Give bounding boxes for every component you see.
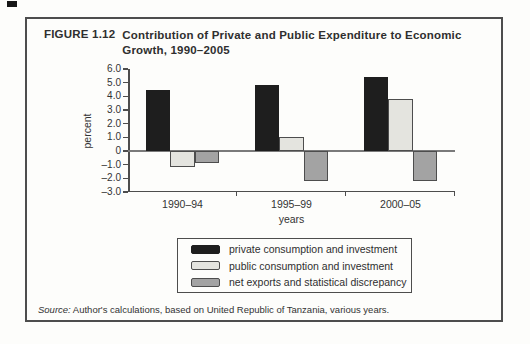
y-tick-1 [123, 137, 128, 139]
y-tick--1 [123, 164, 128, 166]
y-tick-label-1: 1.0 [85, 131, 121, 142]
y-tick-2 [123, 123, 128, 125]
bar-series1-1995–99 [279, 137, 304, 151]
bar-series1-2000–05 [388, 99, 413, 151]
legend-swatch-private [191, 245, 220, 254]
x-axis-tick-1 [236, 192, 238, 196]
figure-frame: FIGURE 1.12 Contribution of Private and … [25, 17, 503, 322]
x-category-1995–99: 1995–99 [237, 198, 346, 210]
x-category-2000–05: 2000–05 [346, 198, 455, 210]
figure-title-block: FIGURE 1.12 Contribution of Private and … [44, 28, 462, 57]
y-tick-label-0: 0 [85, 145, 121, 156]
figure-title: Contribution of Private and Public Expen… [122, 28, 461, 57]
bar-series2-1990–94 [195, 151, 220, 163]
bar-series0-2000–05 [364, 77, 389, 151]
y-tick-6 [123, 68, 128, 70]
source-note: Source: Author's calculations, based on … [38, 304, 389, 315]
y-tick-label--2: –2.0 [85, 172, 121, 183]
legend-label-private: private consumption and investment [229, 243, 397, 255]
legend-label-net-exports: net exports and statistical discrepancy [229, 276, 406, 288]
source-prefix: Source: [38, 304, 71, 315]
legend-item-private: private consumption and investment [191, 241, 411, 258]
legend: private consumption and investment publi… [177, 238, 412, 293]
legend-swatch-net-exports [191, 278, 220, 287]
bar-series0-1990–94 [146, 90, 171, 152]
y-tick-label--3: –3.0 [85, 186, 121, 197]
y-tick--2 [123, 178, 128, 180]
figure-title-line2: Growth, 1990–2005 [122, 43, 461, 58]
figure-number: FIGURE 1.12 [44, 28, 115, 57]
legend-item-net-exports: net exports and statistical discrepancy [191, 274, 411, 291]
y-tick-label-4: 4.0 [85, 90, 121, 101]
legend-label-public: public consumption and investment [229, 260, 393, 272]
y-tick-4 [123, 96, 128, 98]
x-axis-tick-3 [454, 192, 456, 196]
scan-ink-mark [7, 1, 17, 7]
y-tick-label-3: 3.0 [85, 104, 121, 115]
plot-area: percent 6.05.04.03.02.01.00–1.0–2.0–3.01… [128, 69, 455, 192]
y-tick-5 [123, 82, 128, 84]
y-tick-label-6: 6.0 [85, 63, 121, 74]
y-tick-0 [123, 150, 128, 152]
bar-series0-1995–99 [255, 85, 280, 151]
x-axis-line [128, 191, 455, 193]
x-axis-title: years [128, 213, 455, 225]
source-text: Author's calculations, based on United R… [71, 304, 390, 315]
y-tick-label-2: 2.0 [85, 118, 121, 129]
bar-series1-1990–94 [170, 151, 195, 167]
bar-series2-2000–05 [413, 151, 438, 181]
bar-series2-1995–99 [304, 151, 329, 181]
x-axis-tick-2 [345, 192, 347, 196]
x-category-1990–94: 1990–94 [128, 198, 237, 210]
y-tick-label--1: –1.0 [85, 159, 121, 170]
y-tick-3 [123, 109, 128, 111]
y-axis-line [128, 69, 130, 192]
scanned-page: FIGURE 1.12 Contribution of Private and … [0, 0, 530, 344]
figure-title-line1: Contribution of Private and Public Expen… [122, 28, 461, 43]
y-tick-label-5: 5.0 [85, 77, 121, 88]
legend-swatch-public [191, 261, 220, 270]
legend-item-public: public consumption and investment [191, 257, 411, 274]
